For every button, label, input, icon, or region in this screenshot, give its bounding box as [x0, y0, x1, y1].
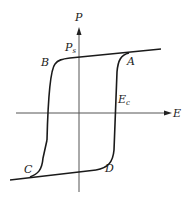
point-a-label: A	[127, 56, 135, 67]
coercive-field-label: Ec	[118, 94, 130, 107]
ps-sub: s	[72, 47, 76, 55]
e-axis-label: E	[173, 108, 181, 119]
point-b-label: B	[41, 57, 49, 68]
p-axis-label: P	[75, 12, 82, 23]
point-c-label: C	[24, 164, 32, 175]
e-axis-arrow-icon	[164, 111, 172, 116]
hysteresis-diagram: P E Ps Ec A B C D	[0, 0, 187, 198]
upper-branch	[47, 49, 161, 140]
ec-main: E	[118, 93, 126, 106]
right-branch	[96, 53, 129, 170]
ec-sub: c	[126, 99, 130, 107]
saturation-polarization-label: Ps	[65, 42, 76, 55]
lower-branch	[10, 170, 96, 180]
p-axis-arrow-icon	[77, 27, 82, 35]
left-branch	[30, 140, 47, 177]
point-d-label: D	[105, 163, 114, 174]
